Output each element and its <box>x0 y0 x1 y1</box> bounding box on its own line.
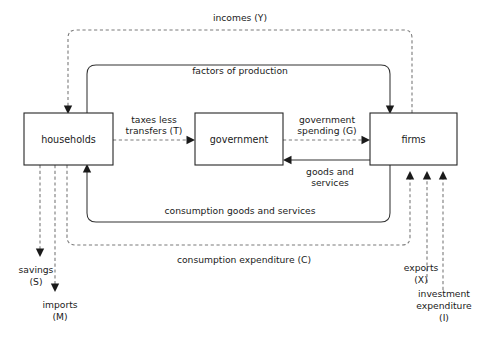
flow-imports-label-line2: (M) <box>52 311 67 322</box>
flow-taxes-arrowhead <box>187 136 196 144</box>
flow-investment-label-line1: investment <box>418 288 470 299</box>
node-government[interactable]: government <box>195 113 283 165</box>
flow-investment-expenditure: investment expenditure (I) <box>416 171 472 323</box>
flow-imports-arrowhead <box>51 284 59 293</box>
flow-exports-label-line1: exports <box>404 262 439 273</box>
node-firms-label: firms <box>401 134 425 145</box>
flow-imports-label-line1: imports <box>42 299 77 310</box>
flow-government-spending-arrowhead <box>362 136 371 144</box>
flow-factors-of-production: factors of production <box>87 65 394 114</box>
circular-flow-diagram: incomes (Y) factors of production taxes … <box>0 0 484 340</box>
node-government-label: government <box>210 134 269 145</box>
node-firms[interactable]: firms <box>370 113 457 165</box>
flow-taxes-less-transfers: taxes less transfers (T) <box>113 114 195 144</box>
flow-government-spending: government spending (G) <box>283 114 370 144</box>
flow-investment-arrowhead <box>439 171 447 180</box>
flow-taxes-label-line1: taxes less <box>131 114 177 125</box>
flow-goods-and-services-label-line1: goods and <box>306 166 354 177</box>
flow-savings-label-line1: savings <box>19 264 54 275</box>
flow-factors-label: factors of production <box>192 65 288 76</box>
flow-government-spending-label-line1: government <box>299 114 355 125</box>
flow-investment-label-line3: (I) <box>439 312 449 323</box>
flow-imports: imports (M) <box>42 165 77 322</box>
flow-incomes-label: incomes (Y) <box>213 12 267 23</box>
flow-incomes: incomes (Y) <box>64 12 412 114</box>
flow-diagram-canvas: incomes (Y) factors of production taxes … <box>0 0 484 340</box>
flow-goods-and-services: goods and services <box>283 156 370 188</box>
flow-savings-arrowhead <box>36 249 44 258</box>
flow-government-spending-label-line2: spending (G) <box>297 125 356 136</box>
flow-consumption-goods-label: consumption goods and services <box>165 205 316 216</box>
flow-exports: exports (X) <box>404 171 439 285</box>
flow-goods-and-services-arrowhead <box>283 156 292 164</box>
flow-investment-label-line2: expenditure <box>416 300 472 311</box>
flow-consumption-expenditure-arrowhead <box>406 171 414 180</box>
flow-goods-and-services-label-line2: services <box>311 177 349 188</box>
node-households[interactable]: households <box>24 113 113 165</box>
flow-consumption-expenditure-label: consumption expenditure (C) <box>177 254 311 265</box>
flow-exports-arrowhead <box>423 171 431 180</box>
node-households-label: households <box>41 134 96 145</box>
flow-taxes-label-line2: transfers (T) <box>126 125 183 136</box>
flow-savings-label-line2: (S) <box>29 276 42 287</box>
flow-exports-label-line2: (X) <box>414 274 427 285</box>
flow-savings: savings (S) <box>19 165 54 287</box>
